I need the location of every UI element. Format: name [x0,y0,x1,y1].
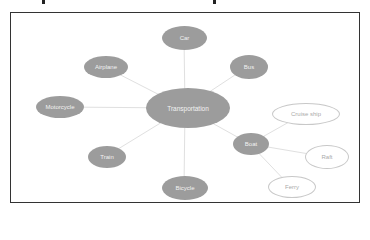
node-ferry[interactable]: Ferry [268,176,316,198]
node-boat[interactable]: Boat [233,133,269,155]
node-train[interactable]: Train [88,146,126,168]
node-bus[interactable]: Bus [230,55,268,79]
node-raft[interactable]: Raft [305,145,349,169]
node-airplane[interactable]: Airplane [84,56,128,78]
node-cruise-ship[interactable]: Cruise ship [272,103,340,125]
node-motorcycle[interactable]: Motorcycle [36,96,84,118]
node-transportation[interactable]: Transportation [146,88,230,128]
node-car[interactable]: Car [162,26,207,50]
node-bicycle[interactable]: Bicycle [162,176,208,200]
